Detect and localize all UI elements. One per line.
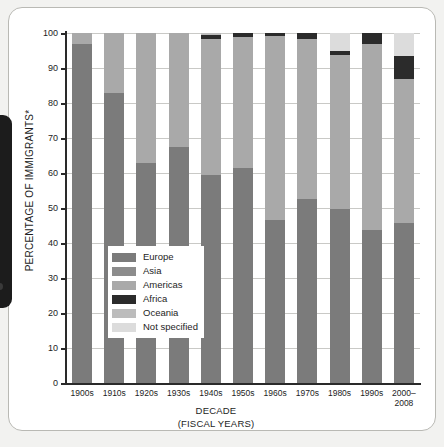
y-tick-label: 50 (32, 204, 58, 213)
bar-segment-americas[interactable] (136, 33, 156, 163)
bar-segment-europe[interactable] (362, 230, 382, 383)
bar-segment-europe[interactable] (394, 223, 414, 383)
legend-swatch-icon (112, 267, 136, 276)
bar-segment-africa[interactable] (362, 33, 382, 44)
bar-segment-europe[interactable] (297, 199, 317, 383)
legend-item-africa[interactable]: Africa (112, 292, 198, 306)
x-axis-title-line2: (FISCAL YEARS) (66, 417, 366, 430)
bar-segment-americas[interactable] (362, 44, 382, 231)
legend-item-americas[interactable]: Americas (112, 278, 198, 292)
bar-segment-not-specified[interactable] (394, 33, 414, 56)
bar-1900s[interactable] (72, 33, 92, 383)
bar-segment-americas[interactable] (104, 33, 124, 93)
x-axis-title-line1: DECADE (66, 404, 366, 417)
bar-segment-oceania[interactable] (201, 33, 221, 35)
legend-swatch-icon (112, 281, 136, 290)
bar-segment-europe[interactable] (265, 220, 285, 383)
bar-segment-americas[interactable] (201, 39, 221, 175)
legend-label: Asia (143, 266, 161, 276)
y-tick-label: 70 (32, 134, 58, 143)
bar-2000-2008[interactable] (394, 33, 414, 383)
bar-segment-americas[interactable] (169, 33, 189, 147)
bar-segment-europe[interactable] (330, 209, 350, 383)
bar-segment-africa[interactable] (233, 33, 253, 37)
bar-segment-europe[interactable] (104, 93, 124, 384)
page-root: PERCENTAGE OF IMMIGRANTS* 01020304050607… (0, 0, 444, 447)
bar-1950s[interactable] (233, 33, 253, 383)
legend-item-asia[interactable]: Asia (112, 264, 198, 278)
legend-label: Not specified (143, 322, 198, 332)
legend-label: Oceania (143, 308, 178, 318)
x-axis-title: DECADE (FISCAL YEARS) (66, 404, 366, 430)
bar-1990s[interactable] (362, 33, 382, 383)
bar-segment-americas[interactable] (394, 79, 414, 223)
legend-swatch-icon (112, 309, 136, 318)
y-tick-label: 80 (32, 99, 58, 108)
x-axis-line (65, 383, 421, 385)
x-tick-label: 2000–2008 (380, 388, 428, 408)
legend-swatch-icon (112, 295, 136, 304)
bar-segment-africa[interactable] (201, 35, 221, 39)
y-tick-label: 40 (32, 239, 58, 248)
bar-segment-americas[interactable] (297, 39, 317, 199)
bar-1960s[interactable] (265, 33, 285, 383)
bar-segment-americas[interactable] (330, 55, 350, 209)
bar-segment-africa[interactable] (394, 56, 414, 79)
bar-segment-europe[interactable] (72, 44, 92, 384)
legend-item-oceania[interactable]: Oceania (112, 306, 198, 320)
bar-1970s[interactable] (297, 33, 317, 383)
bar-segment-europe[interactable] (233, 168, 253, 383)
y-tick-label: 60 (32, 169, 58, 178)
legend-item-europe[interactable]: Europe (112, 250, 198, 264)
bar-segment-africa[interactable] (297, 33, 317, 39)
y-tick-label: 100 (32, 29, 58, 38)
bar-segment-americas[interactable] (72, 33, 92, 44)
y-tick-label: 20 (32, 309, 58, 318)
legend-label: Africa (143, 294, 167, 304)
legend-swatch-icon (112, 253, 136, 262)
legend-swatch-icon (112, 323, 136, 332)
y-tick-label: 0 (32, 379, 58, 388)
y-tick-label: 10 (32, 344, 58, 353)
legend-label: Americas (143, 280, 183, 290)
bar-segment-americas[interactable] (233, 37, 253, 168)
stacked-bar-chart: PERCENTAGE OF IMMIGRANTS* 01020304050607… (0, 0, 444, 447)
bar-segment-not-specified[interactable] (330, 33, 350, 51)
bar-segment-africa[interactable] (330, 51, 350, 55)
y-tick-label: 30 (32, 274, 58, 283)
legend-item-not-specified[interactable]: Not specified (112, 320, 198, 334)
bar-segment-americas[interactable] (265, 36, 285, 220)
bar-1980s[interactable] (330, 33, 350, 383)
legend-label: Europe (143, 252, 174, 262)
y-tick-label: 90 (32, 64, 58, 73)
chart-legend: EuropeAsiaAmericasAfricaOceaniaNot speci… (108, 246, 204, 338)
bar-segment-africa[interactable] (265, 33, 285, 36)
